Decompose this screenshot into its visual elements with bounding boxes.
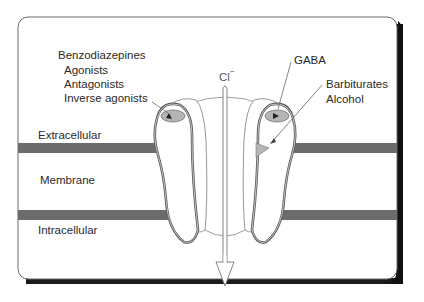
benzodiazepines-item-antagonists: Antagonists (64, 77, 124, 91)
chloride-ion-label: Cl− (219, 67, 235, 84)
inner-membrane-band-left (18, 210, 188, 220)
gaba-site (265, 110, 289, 122)
benzodiazepines-title: Benzodiazepines (58, 48, 146, 62)
intracellular-label: Intracellular (38, 223, 97, 237)
chloride-charge: − (230, 67, 235, 76)
diagram-canvas: Benzodiazepines Agonists Antagonists Inv… (0, 0, 424, 302)
chloride-symbol: Cl (219, 71, 230, 83)
membrane-label: Membrane (40, 173, 95, 187)
diagram-svg (0, 0, 424, 302)
benzodiazepines-item-inverse-agonists: Inverse agonists (64, 91, 148, 105)
benzodiazepines-item-agonists: Agonists (64, 63, 108, 77)
alcohol-label: Alcohol (326, 92, 364, 106)
gaba-label: GABA (294, 53, 326, 67)
inner-membrane-band-right (268, 210, 397, 220)
benzodiazepine-site (161, 110, 185, 122)
extracellular-label: Extracellular (38, 128, 101, 142)
barbiturates-label: Barbiturates (326, 77, 388, 91)
